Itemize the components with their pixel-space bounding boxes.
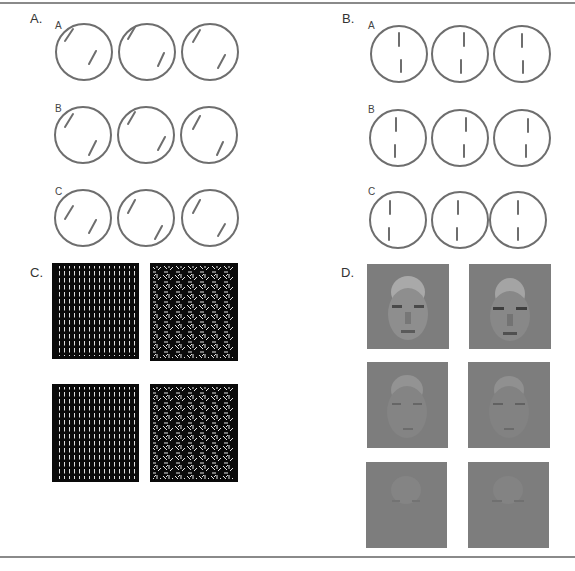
texture-random-bottom bbox=[150, 384, 238, 482]
face-image-row2-left bbox=[367, 362, 448, 448]
face-image-row3-left bbox=[366, 462, 447, 548]
texture-aligned-top bbox=[52, 263, 139, 359]
texture-random-top bbox=[150, 263, 238, 361]
face-image-row3-right bbox=[468, 462, 549, 548]
panel-b-row-b bbox=[370, 110, 550, 166]
texture-aligned-bottom bbox=[52, 384, 139, 482]
face-image-row1-left bbox=[367, 264, 449, 349]
panel-a-row-a bbox=[56, 24, 238, 80]
panel-d-label: D. bbox=[341, 265, 354, 280]
face-image-row1-right bbox=[469, 264, 551, 349]
panel-b-row-a bbox=[371, 26, 550, 82]
panel-a-row-c bbox=[55, 190, 238, 246]
face-image-row2-right bbox=[468, 362, 550, 448]
panel-b-row-c bbox=[370, 192, 546, 248]
panel-c-label: C. bbox=[30, 265, 43, 280]
panel-a-row-b bbox=[55, 107, 237, 163]
